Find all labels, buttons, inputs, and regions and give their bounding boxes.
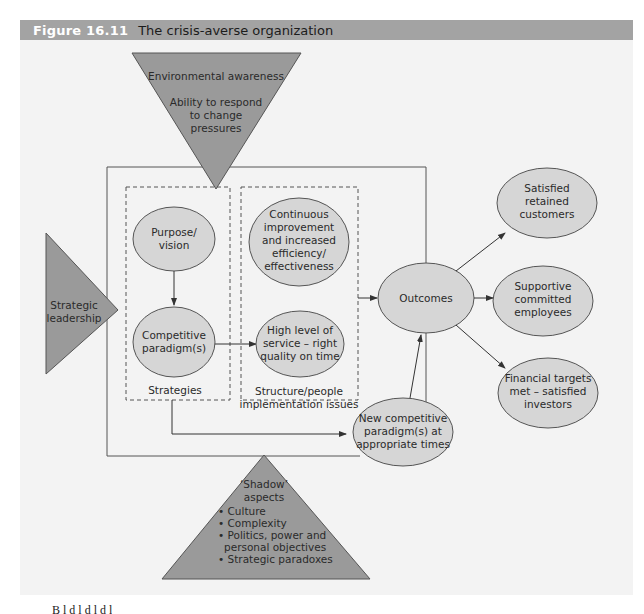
service-text-3: quality on time <box>260 350 339 362</box>
paradigm-text: paradigm(s) <box>142 342 206 354</box>
respond-text-2: to change <box>190 109 243 121</box>
shadow-title-2: aspects <box>244 491 284 503</box>
customers-text-3: customers <box>520 208 575 220</box>
service-text-2: service – right <box>263 337 337 349</box>
service-quality-node: High level of service – right quality on… <box>256 311 344 377</box>
competitive-text: Competitive <box>142 329 206 341</box>
continuous-text-4: efficiency/ <box>272 247 326 259</box>
customers-text-1: Satisfied <box>524 182 569 194</box>
respond-text-1: Ability to respond <box>170 96 263 108</box>
investors-text-2: met – satisfied <box>510 385 587 397</box>
new-paradigm-text-3: appropriate times <box>356 438 450 450</box>
new-paradigm-node: New competitive paradigm(s) at appropria… <box>353 398 453 466</box>
shadow-bullet-politics-cont: personal objectives <box>224 541 326 553</box>
continuous-improvement-node: Continuous improvement and increased eff… <box>249 198 349 286</box>
employees-text-3: employees <box>514 306 571 318</box>
new-paradigm-text-1: New competitive <box>359 412 448 424</box>
purpose-vision-node: Purpose/ vision <box>133 207 215 271</box>
continuous-text-3: and increased <box>262 234 336 246</box>
continuous-text-1: Continuous <box>269 208 328 220</box>
shadow-bullet-politics: • Politics, power and <box>218 529 326 541</box>
environmental-awareness-triangle: Environmental awareness Ability to respo… <box>132 53 301 189</box>
shadow-bullet-complexity: • Complexity <box>218 517 287 529</box>
outcomes-to-investors-arrow <box>456 325 505 368</box>
strategies-label: Strategies <box>148 384 202 396</box>
crisis-averse-diagram: Environmental awareness Ability to respo… <box>0 0 644 614</box>
outcomes-to-customers-arrow <box>456 233 505 271</box>
competitive-paradigm-node: Competitive paradigm(s) <box>133 307 215 377</box>
leadership-text: leadership <box>47 312 102 324</box>
employees-text-2: committed <box>515 293 572 305</box>
result-employees-node: Supportive committed employees <box>493 266 593 336</box>
structure-label-2: implementation issues <box>240 398 359 410</box>
shadow-aspects-triangle: ‘Shadow’ aspects • Culture • Complexity … <box>162 455 370 579</box>
outcomes-text: Outcomes <box>399 292 452 304</box>
investors-text-1: Financial targets <box>505 372 592 384</box>
continuous-text-2: improvement <box>264 221 334 233</box>
new-paradigm-to-outcomes-arrow <box>410 335 421 398</box>
continuous-text-5: effectiveness <box>264 260 334 272</box>
purpose-text: Purpose/ <box>151 226 197 238</box>
investors-text-3: investors <box>524 398 572 410</box>
env-awareness-text: Environmental awareness <box>148 70 284 82</box>
shadow-bullet-culture: • Culture <box>218 505 266 517</box>
outcomes-node: Outcomes <box>378 263 474 333</box>
shadow-bullet-paradoxes: • Strategic paradoxes <box>218 553 333 565</box>
vision-text: vision <box>159 239 190 251</box>
respond-text-3: pressures <box>191 122 242 134</box>
cut-off-body-text: B l d l d l d l <box>52 603 112 614</box>
shadow-title-1: ‘Shadow’ <box>240 478 288 490</box>
strategic-text: Strategic <box>50 299 98 311</box>
customers-text-2: retained <box>525 195 569 207</box>
new-paradigm-text-2: paradigm(s) at <box>364 425 442 437</box>
result-investors-node: Financial targets met – satisfied invest… <box>498 358 598 428</box>
service-text-1: High level of <box>267 324 333 336</box>
result-customers-node: Satisfied retained customers <box>497 168 597 238</box>
employees-text-1: Supportive <box>514 280 571 292</box>
structure-label-1: Structure/people <box>255 385 343 397</box>
